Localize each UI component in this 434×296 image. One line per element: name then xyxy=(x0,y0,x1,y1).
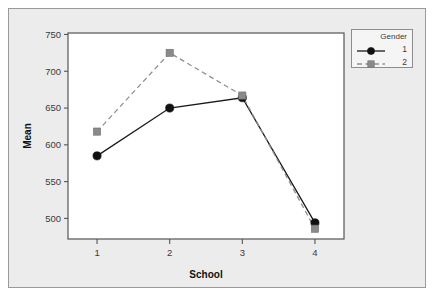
chart-legend[interactable]: Gender 12 xyxy=(351,29,413,68)
y-tick-label: 650 xyxy=(45,102,61,113)
y-tick-label: 500 xyxy=(45,213,61,224)
plot-area-background xyxy=(68,33,344,239)
y-tick-label: 750 xyxy=(45,29,61,40)
y-tick-label: 550 xyxy=(45,176,61,187)
legend-entry[interactable]: 2 xyxy=(352,56,412,68)
x-tick-label: 3 xyxy=(240,247,245,258)
data-point xyxy=(166,49,173,56)
legend-title: Gender xyxy=(380,32,407,41)
legend-entry[interactable]: 1 xyxy=(352,43,412,55)
x-axis-ticks: 1234 xyxy=(94,239,317,258)
data-point xyxy=(93,152,101,160)
x-tick-label: 2 xyxy=(167,247,172,258)
data-point xyxy=(166,104,174,112)
x-axis-title: School xyxy=(189,269,223,280)
legend-entry-label: 2 xyxy=(402,57,407,67)
x-tick-label: 1 xyxy=(94,247,99,258)
x-tick-label: 4 xyxy=(312,247,317,258)
chart-panel: 500550600650700750 1234 Mean School Gend… xyxy=(8,8,426,288)
y-tick-label: 600 xyxy=(45,139,61,150)
legend-swatch-circle-icon xyxy=(356,43,386,55)
chart-figure: 500550600650700750 1234 Mean School Gend… xyxy=(0,0,434,296)
y-tick-label: 700 xyxy=(45,66,61,77)
legend-swatch-square-icon xyxy=(356,56,386,68)
y-axis-title: Mean xyxy=(22,123,33,149)
legend-entry-label: 1 xyxy=(402,44,407,54)
data-point xyxy=(311,225,318,232)
data-point xyxy=(93,128,100,135)
data-point xyxy=(239,92,246,99)
y-axis-ticks: 500550600650700750 xyxy=(45,29,68,224)
